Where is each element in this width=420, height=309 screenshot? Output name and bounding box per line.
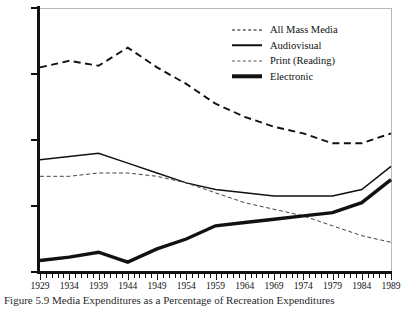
series-line-print-reading xyxy=(40,173,391,242)
series-line-electronic xyxy=(40,180,391,263)
legend-item-print-reading: Print (Reading) xyxy=(232,53,338,69)
legend-item-audiovisual: Audiovisual xyxy=(232,38,338,54)
figure-container: 020406080 192919341939194419491954195919… xyxy=(0,0,420,309)
legend-label: All Mass Media xyxy=(270,24,338,35)
fine-dashed-line-key-icon xyxy=(232,56,262,66)
series-line-all-mass-media xyxy=(40,48,391,144)
legend-label: Electronic xyxy=(270,71,313,82)
series-line-audiovisual xyxy=(40,153,391,196)
chart-legend: All Mass Media Audiovisual Print (Readin… xyxy=(232,22,338,84)
dashed-line-key-icon xyxy=(232,25,262,35)
solid-line-key-icon xyxy=(232,40,262,50)
legend-label: Print (Reading) xyxy=(270,55,335,66)
figure-caption: Figure 5.9 Media Expenditures as a Perce… xyxy=(4,294,420,306)
thick-solid-line-key-icon xyxy=(232,71,262,81)
legend-item-all-mass-media: All Mass Media xyxy=(232,22,338,38)
legend-item-electronic: Electronic xyxy=(232,69,338,85)
chart-series-layer xyxy=(0,0,420,309)
legend-label: Audiovisual xyxy=(270,40,321,51)
